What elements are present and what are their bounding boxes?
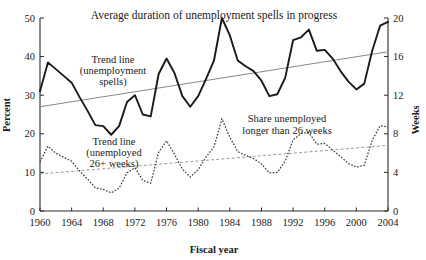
y-tick-label-left: 20 [25, 128, 36, 139]
x-tick-label: 1996 [314, 217, 335, 228]
y-tick-label-right: 8 [393, 128, 398, 139]
y-tick-label-left: 30 [25, 90, 36, 101]
x-tick-label: 1984 [219, 217, 241, 228]
y-tick-label-left: 0 [30, 206, 35, 217]
y-axis-left-title: Percent [1, 97, 12, 132]
x-tick-label: 1988 [251, 217, 272, 228]
y-tick-label-right: 12 [393, 90, 404, 101]
y-ticks-left: 01020304050 [25, 13, 45, 217]
annotation-trend-26weeks-line1: Trend line [92, 136, 135, 147]
x-tick-label: 1972 [124, 217, 145, 228]
annotation-share-26weeks-line1: Share unemployed [248, 113, 327, 124]
y-tick-label-right: 0 [393, 206, 398, 217]
x-tick-label: 2000 [346, 217, 367, 228]
chart-title: Average duration of unemployment spells … [91, 9, 338, 22]
x-tick-label: 1960 [30, 217, 51, 228]
y-ticks-right: 048121620 [384, 13, 404, 217]
y-tick-label-left: 40 [25, 51, 36, 62]
x-tick-label: 1968 [93, 217, 114, 228]
y-tick-label-left: 50 [25, 13, 36, 24]
x-tick-label: 1964 [61, 217, 83, 228]
y-tick-label-right: 20 [393, 13, 404, 24]
x-tick-label: 1992 [283, 217, 304, 228]
axes-group [40, 18, 388, 211]
chart-plot-area: 01020304050 048121620 196019641968197219… [0, 0, 426, 260]
y-tick-label-right: 16 [393, 51, 404, 62]
annotation-trend-26weeks-line3: 26+ weeks) [90, 158, 139, 170]
y-axis-right-title: Weeks [410, 105, 421, 134]
x-axis-title: Fiscal year [190, 244, 239, 255]
annotation-trend-spells-line1: Trend line [91, 54, 134, 65]
y-tick-label-left: 10 [25, 167, 36, 178]
x-tick-label: 1976 [156, 217, 177, 228]
y-tick-label-right: 4 [393, 167, 399, 178]
x-tick-label: 2004 [378, 217, 400, 228]
series-average-duration-weeks [40, 18, 388, 135]
chart-figure: 01020304050 048121620 196019641968197219… [0, 0, 426, 260]
annotation-trend-spells-line3: spells) [99, 76, 127, 88]
annotation-share-26weeks-line2: longer than 26 weeks [242, 125, 332, 136]
x-tick-label: 1980 [188, 217, 209, 228]
